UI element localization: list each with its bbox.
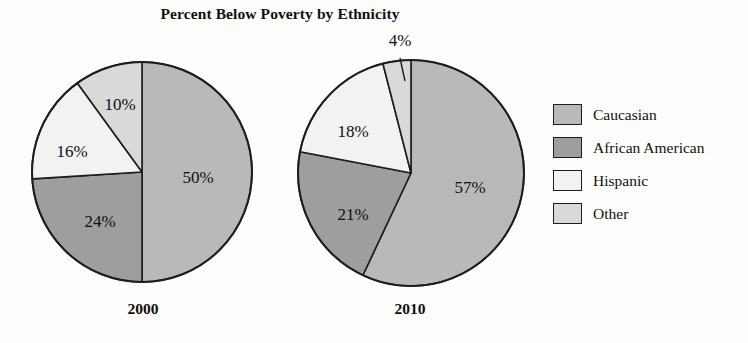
year-label-2000: 2000: [98, 300, 188, 318]
pie-2000-label-caucasian: 50%: [176, 168, 220, 188]
pie-chart-figure: Percent Below Poverty by Ethnicity 10% 1…: [0, 0, 748, 343]
page-title: Percent Below Poverty by Ethnicity: [0, 5, 560, 23]
pie-2010-label-caucasian: 57%: [448, 178, 492, 198]
legend-item-caucasian: Caucasian: [553, 98, 743, 131]
pie-2000-label-other: 10%: [100, 95, 140, 115]
pie-2000-label-african-american: 24%: [80, 212, 120, 232]
pie-chart-2000: [22, 52, 262, 292]
pie-2010-slices: [298, 60, 524, 286]
pie-chart-2010: [288, 48, 534, 294]
legend-label-african-american: African American: [593, 140, 704, 156]
pie-2000-label-hispanic: 16%: [52, 142, 92, 162]
legend-item-african-american: African American: [553, 131, 743, 164]
legend-item-other: Other: [553, 197, 743, 230]
chart-legend: Caucasian African American Hispanic Othe…: [553, 98, 743, 230]
legend-label-caucasian: Caucasian: [593, 107, 657, 123]
pie-2010-label-african-american: 21%: [331, 205, 375, 225]
legend-swatch-other: [553, 203, 582, 224]
pie-2010-label-hispanic: 18%: [331, 122, 375, 142]
legend-swatch-caucasian: [553, 104, 582, 125]
legend-swatch-african-american: [553, 137, 582, 158]
legend-swatch-hispanic: [553, 170, 582, 191]
legend-label-other: Other: [593, 206, 628, 222]
legend-label-hispanic: Hispanic: [593, 173, 648, 189]
pie-2010-label-other: 4%: [380, 31, 420, 51]
year-label-2010: 2010: [365, 300, 455, 318]
legend-item-hispanic: Hispanic: [553, 164, 743, 197]
